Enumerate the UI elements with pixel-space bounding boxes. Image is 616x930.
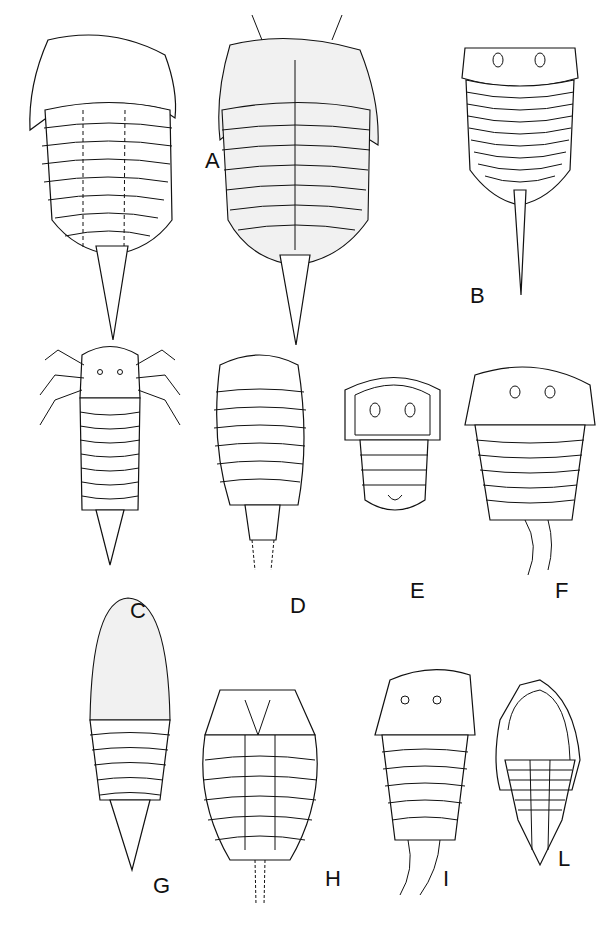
panel-label-a: A — [205, 150, 220, 172]
panel-label-f: F — [555, 580, 568, 602]
figure-i — [375, 670, 475, 895]
figure-a-dorsal — [30, 35, 176, 340]
figure-b — [462, 48, 578, 295]
plate-drawings — [0, 0, 616, 930]
figure-g — [90, 598, 170, 870]
figure-f — [465, 367, 595, 575]
panel-label-h: H — [325, 868, 341, 890]
figure-d — [214, 355, 306, 570]
panel-label-b: B — [470, 285, 485, 307]
figure-c — [40, 347, 180, 566]
panel-label-c: C — [130, 600, 146, 622]
figure-e — [345, 378, 440, 511]
panel-label-d: D — [290, 595, 306, 617]
panel-label-i: I — [443, 868, 449, 890]
figure-l — [496, 680, 580, 865]
panel-label-l: L — [558, 848, 570, 870]
panel-label-e: E — [410, 580, 425, 602]
panel-label-g: G — [153, 875, 170, 897]
figure-a-ventral — [219, 15, 378, 345]
figure-h — [203, 690, 317, 905]
